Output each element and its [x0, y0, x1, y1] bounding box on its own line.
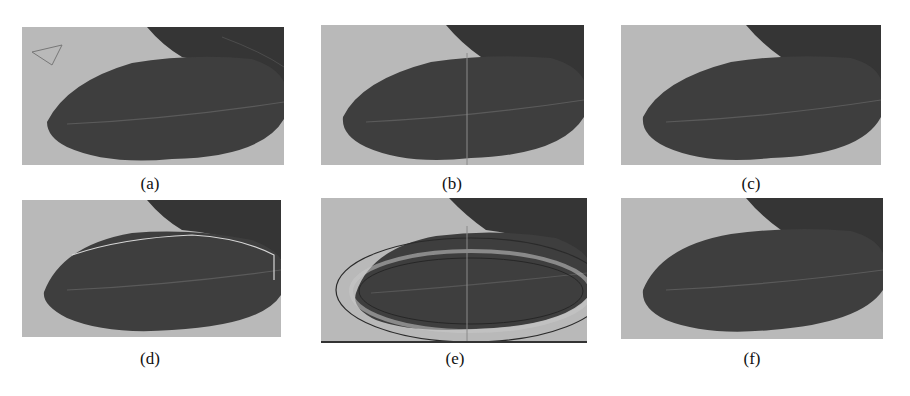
- caption-c: (c): [721, 174, 781, 194]
- panel-c: [621, 25, 881, 165]
- leaf-image-c: [621, 25, 881, 165]
- panel-f: [621, 198, 883, 339]
- panel-e: [321, 198, 587, 343]
- panel-d: [22, 200, 281, 337]
- caption-a: (a): [120, 174, 180, 194]
- leaf-image-a: [22, 27, 284, 165]
- leaf-image-d: [22, 200, 281, 337]
- leaf-image-f: [621, 198, 883, 339]
- panel-b: [321, 25, 584, 165]
- caption-d: (d): [120, 349, 180, 369]
- caption-f: (f): [722, 349, 782, 369]
- triangle-marker-icon: [32, 45, 62, 65]
- panel-a: [22, 27, 284, 165]
- leaf-image-b: [321, 25, 584, 165]
- caption-e: (e): [425, 349, 485, 369]
- leaf-image-e: [321, 198, 587, 341]
- caption-b: (b): [422, 174, 482, 194]
